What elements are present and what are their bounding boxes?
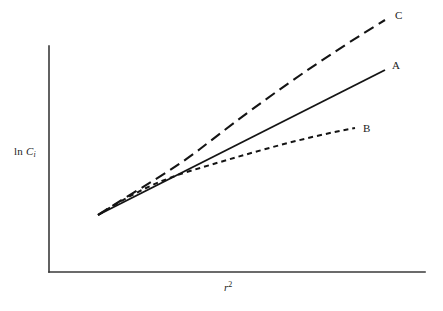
x-axis-label: r2 <box>224 280 232 293</box>
figure-container: ln Ci r2 A B C <box>0 0 443 311</box>
plot-canvas <box>0 0 443 311</box>
axis-group <box>49 46 425 272</box>
curve-label-a: A <box>392 59 400 71</box>
curve-label-b: B <box>363 122 370 134</box>
y-axis-label-subscript: i <box>33 150 35 159</box>
x-axis-label-superscript: 2 <box>228 280 232 289</box>
y-axis-label-prefix: ln <box>14 145 26 157</box>
curve-a-path <box>98 70 385 215</box>
y-axis-label: ln Ci <box>14 145 36 159</box>
curve-c-path <box>98 20 385 215</box>
curve-label-c: C <box>395 9 402 21</box>
curve-b-path <box>98 128 355 215</box>
